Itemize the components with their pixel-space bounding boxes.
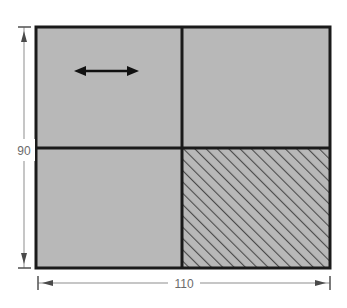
diagram-canvas: 90 110 <box>0 0 347 308</box>
dimension-height-label: 90 <box>17 144 31 158</box>
quadrant-top-right <box>182 27 330 148</box>
technical-drawing: 90 110 <box>0 0 347 308</box>
quadrant-bottom-left <box>36 148 182 268</box>
quadrant-top-left <box>36 27 182 148</box>
dimension-width-label: 110 <box>174 277 193 291</box>
quadrant-bottom-right-hatched <box>182 148 330 268</box>
